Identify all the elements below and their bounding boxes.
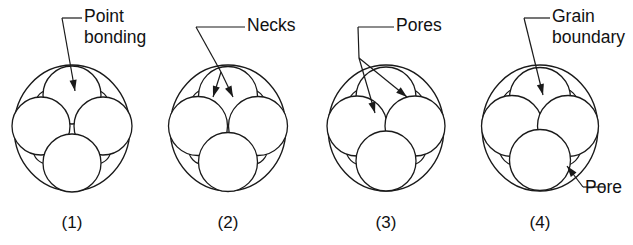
panel-number-2: (2) bbox=[218, 213, 239, 232]
panel-number-4: (4) bbox=[530, 213, 551, 232]
panel-number-1: (1) bbox=[62, 213, 83, 232]
label-grain-boundary: Grainboundary bbox=[524, 6, 625, 95]
grain-bottom-3 bbox=[356, 131, 416, 191]
label-text-pores: Pores bbox=[396, 15, 442, 35]
label-text-grain-boundary-line2: boundary bbox=[552, 27, 625, 47]
diagram-canvas: (1)(2)(3)(4) PointbondingNecksPoresGrain… bbox=[0, 0, 633, 245]
panel-1: (1) bbox=[12, 65, 132, 232]
label-text-necks: Necks bbox=[247, 15, 296, 35]
panel-number-3: (3) bbox=[376, 213, 397, 232]
grain-bottom-2 bbox=[199, 133, 258, 192]
label-pore: Pore bbox=[567, 166, 622, 197]
panels-layer: (1)(2)(3)(4) bbox=[12, 65, 599, 232]
leader-stem-pores bbox=[358, 27, 359, 58]
grain-bottom-4 bbox=[510, 130, 571, 191]
leader-stem-necks bbox=[196, 27, 221, 72]
label-text-point-bonding-line2: bonding bbox=[84, 27, 146, 47]
label-text-point-bonding-line1: Point bbox=[84, 6, 124, 26]
sintering-stages-figure: (1)(2)(3)(4) PointbondingNecksPoresGrain… bbox=[0, 0, 633, 245]
panel-3: (3) bbox=[327, 65, 445, 232]
label-text-pore: Pore bbox=[585, 177, 622, 197]
label-text-grain-boundary-line1: Grain bbox=[552, 6, 595, 26]
grain-bottom-1 bbox=[43, 134, 101, 192]
